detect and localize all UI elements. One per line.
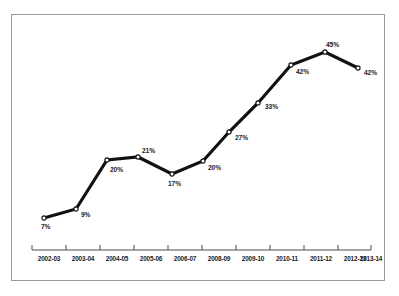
x-axis-label: 2011-12 [310,256,332,262]
data-value-label: 7% [41,224,50,231]
data-point-marker [289,63,293,67]
x-axis-label: 2008-09 [208,256,230,262]
x-axis-ticks [32,245,371,250]
data-value-label: 17% [168,181,181,188]
data-point-marker [74,207,78,211]
data-point-marker [170,172,174,176]
series-markers [42,50,360,220]
data-point-marker [201,159,205,163]
data-value-label: 42% [296,69,309,76]
data-point-marker [256,101,260,105]
chart-page: 7%9%20%21%17%20%27%33%42%45%42% 2002-032… [0,0,399,296]
data-value-label: 42% [364,70,377,77]
data-value-label: 9% [81,212,90,219]
x-axis-label: 2005-06 [140,256,162,262]
x-axis-label: 2004-05 [106,256,128,262]
data-point-marker [227,130,231,134]
x-axis-label: 2009-10 [242,256,264,262]
x-axis-label: 2006-07 [174,256,196,262]
data-point-marker [356,66,360,70]
x-axis-label: 2010-11 [276,256,298,262]
data-value-label: 20% [208,165,221,172]
data-value-label: 27% [235,135,248,142]
x-axis [32,245,371,250]
x-axis-label: 2013-14 [360,256,382,262]
x-axis-label: 2003-04 [72,256,94,262]
series-line [44,52,358,218]
data-value-label: 45% [326,42,339,49]
x-axis-label: 2002-03 [38,256,60,262]
data-value-label: 20% [110,167,123,174]
data-point-marker [136,155,140,159]
data-value-label: 33% [265,104,278,111]
data-value-label: 21% [142,148,155,155]
data-point-marker [105,158,109,162]
data-point-marker [42,216,46,220]
line-chart-plot [0,0,399,296]
data-point-marker [323,50,327,54]
